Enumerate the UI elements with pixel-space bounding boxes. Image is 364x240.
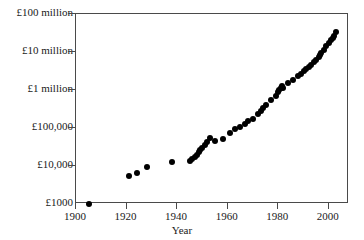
x-axis-tick-label: 1920	[115, 210, 137, 222]
x-axis-tick	[328, 203, 329, 209]
x-axis-title: Year	[0, 224, 364, 236]
data-point	[280, 85, 286, 91]
data-points-layer	[76, 14, 347, 202]
x-axis-tick-label: 1980	[266, 210, 288, 222]
y-axis-tick-label: £1 million	[27, 83, 73, 94]
y-axis-tick	[68, 165, 75, 166]
data-point	[212, 138, 218, 144]
y-axis-tick-label: £100 million	[16, 7, 73, 18]
data-point	[134, 170, 140, 176]
data-point	[126, 173, 132, 179]
y-axis-tick-label: £1000	[46, 197, 74, 208]
data-point	[263, 102, 269, 108]
data-point	[220, 136, 226, 142]
y-axis-tick	[68, 51, 75, 52]
data-point	[333, 29, 339, 35]
x-axis-tick	[277, 203, 278, 209]
x-axis-tick	[227, 203, 228, 209]
data-point	[169, 159, 175, 165]
scatter-chart-figure: £1000£10,000£100,000£1 million£10 millio…	[0, 0, 364, 240]
x-axis-tick-label: 1900	[64, 210, 86, 222]
y-axis-tick	[68, 13, 75, 14]
x-axis-tick	[75, 203, 76, 209]
data-point	[86, 201, 92, 207]
x-axis-tick-label: 2000	[317, 210, 339, 222]
data-point	[144, 164, 150, 170]
y-axis-tick-label: £10 million	[22, 45, 73, 56]
x-axis-tick	[176, 203, 177, 209]
plot-area	[75, 13, 348, 203]
x-axis-tick	[126, 203, 127, 209]
y-axis-tick	[68, 127, 75, 128]
y-axis-tick-label: £100,000	[32, 121, 73, 132]
x-axis-tick-label: 1960	[216, 210, 238, 222]
x-axis-tick-label: 1940	[165, 210, 187, 222]
data-point	[250, 116, 256, 122]
y-axis-tick	[68, 89, 75, 90]
